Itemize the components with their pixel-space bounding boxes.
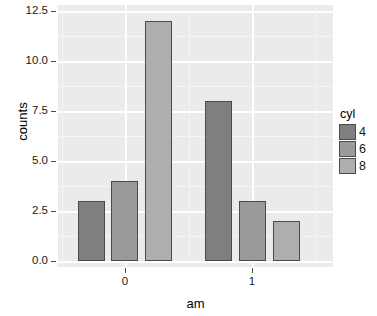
- bar-am1-cyl4: [205, 101, 232, 261]
- bar-am1-cyl8: [273, 221, 300, 261]
- bar-am0-cyl4: [78, 201, 105, 261]
- legend-swatch-4-icon: [339, 124, 356, 140]
- y-tick-mark-10-0: [51, 61, 56, 62]
- legend-label-8: 8: [359, 160, 366, 173]
- legend-item-4[interactable]: 4: [339, 124, 366, 141]
- x-tick-mark-0: [125, 268, 126, 273]
- legend-swatch-6-icon: [339, 141, 356, 157]
- y-tick-label-5-0: 5.0: [12, 155, 48, 167]
- y-tick-label-12-5: 12.5: [12, 5, 48, 17]
- legend: cyl 4 6 8: [339, 108, 366, 175]
- bar-chart: counts 12.5 10.0 7.5 5.0 2.5 0.0: [0, 0, 377, 316]
- bar-am0-cyl6: [111, 181, 138, 261]
- y-tick-label-2-5: 2.5: [12, 205, 48, 217]
- y-tick-mark-5-0: [51, 161, 56, 162]
- legend-swatch-8-icon: [339, 158, 356, 174]
- gridline-minor-11-25: [58, 36, 333, 37]
- bar-am0-cyl8: [145, 21, 172, 261]
- gridline-vminor-left: [62, 5, 63, 267]
- y-tick-mark-0-0: [51, 261, 56, 262]
- gridline-major-12-5: [58, 11, 333, 13]
- gridline-minor-8-75: [58, 86, 333, 87]
- x-tick-label-0: 0: [105, 275, 145, 287]
- legend-item-6[interactable]: 6: [339, 141, 366, 158]
- x-axis-title: am: [58, 296, 333, 311]
- y-tick-mark-12-5: [51, 11, 56, 12]
- gridline-minor-3-75: [58, 186, 333, 187]
- y-axis-ticks: 12.5 10.0 7.5 5.0 2.5 0.0: [8, 0, 48, 316]
- y-tick-mark-7-5: [51, 111, 56, 112]
- gridline-minor-6-25: [58, 136, 333, 137]
- gridline-major-10-0: [58, 61, 333, 63]
- legend-title: cyl: [340, 108, 366, 122]
- plot-panel: [58, 5, 333, 267]
- legend-label-6: 6: [359, 143, 366, 156]
- legend-item-8[interactable]: 8: [339, 158, 366, 175]
- bar-am1-cyl6: [239, 201, 266, 261]
- gridline-major-0-0: [58, 261, 333, 263]
- x-tick-mark-1: [252, 268, 253, 273]
- gridline-vminor-mid: [189, 5, 190, 267]
- y-tick-label-7-5: 7.5: [12, 105, 48, 117]
- y-tick-label-10-0: 10.0: [12, 55, 48, 67]
- gridline-vminor-right: [316, 5, 317, 267]
- y-tick-label-0-0: 0.0: [12, 255, 48, 267]
- gridline-major-7-5: [58, 111, 333, 113]
- x-tick-label-1: 1: [232, 275, 272, 287]
- gridline-major-5-0: [58, 161, 333, 163]
- y-tick-mark-2-5: [51, 211, 56, 212]
- legend-label-4: 4: [359, 126, 366, 139]
